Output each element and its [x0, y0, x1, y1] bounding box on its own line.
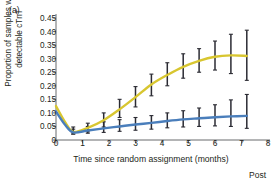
- error-bar: [229, 34, 233, 73]
- error-bars: [71, 30, 249, 134]
- x-tick-label: 2: [99, 138, 119, 148]
- x-axis-label: Time since random assignment (months): [38, 154, 264, 164]
- y-tick-label: 0.25: [26, 68, 56, 77]
- error-bar: [229, 100, 233, 127]
- x-tick-label: 3: [126, 138, 146, 148]
- x-tick-label: 8: [258, 138, 276, 148]
- x-tick-label: 0: [46, 138, 66, 148]
- y-tick-label: 0.35: [26, 41, 56, 50]
- x-tick-label: 7: [232, 138, 252, 148]
- y-tick-label: 0.05: [26, 122, 56, 131]
- x-tick-label: 5: [179, 138, 199, 148]
- y-tick-label: 0.15: [26, 95, 56, 104]
- x-axis-tick-labels: 012345678: [0, 138, 276, 152]
- y-tick-label: 0.10: [26, 108, 56, 117]
- error-bar: [213, 105, 217, 126]
- y-tick-label: 0.20: [26, 81, 56, 90]
- figure-panel-a: (a) Proportion of samples with detectabl…: [0, 0, 276, 183]
- y-tick-label: 0.30: [26, 54, 56, 63]
- x-tick-label: 4: [152, 138, 172, 148]
- x-tick-label: 6: [205, 138, 225, 148]
- error-bar: [245, 94, 249, 128]
- y-tick-label: 0.40: [26, 27, 56, 36]
- x-tick-label: 1: [73, 138, 93, 148]
- y-tick-label: 0.45: [26, 14, 56, 23]
- post-annotation: Post: [249, 170, 266, 180]
